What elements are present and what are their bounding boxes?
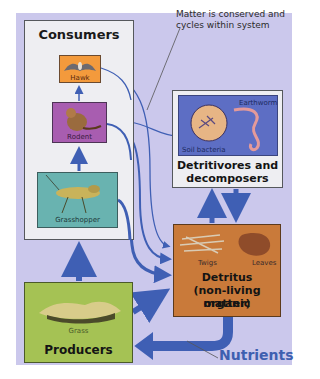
leaves-label: Leaves [252, 259, 276, 267]
rodent-image [53, 104, 107, 134]
earthworm-image [234, 109, 259, 150]
detritus-title-line3: matter) [174, 297, 280, 310]
producers-box: Grass Producers [24, 282, 133, 363]
grasshopper-label: Grasshopper [38, 216, 117, 224]
producers-title: Producers [25, 344, 132, 357]
soil-bacteria-label: Soil bacteria [182, 146, 226, 154]
detritivores-title-line2: decomposers [173, 172, 282, 185]
grasshopper-box: Grasshopper [37, 172, 118, 228]
grasshopper-image [38, 173, 118, 215]
nutrients-label: Nutrients [219, 347, 294, 363]
detritivores-title-line1: Detritivores and [173, 159, 282, 172]
decomposers-image-panel: Earthworm Soil bacteria [178, 95, 278, 156]
detritus-box: Twigs Leaves Detritus (non-living organi… [173, 224, 281, 317]
twigs-label: Twigs [198, 259, 217, 267]
hawk-box: Hawk [59, 55, 101, 83]
earthworm-label: Earthworm [239, 99, 277, 107]
twigs-leaves-image [174, 229, 280, 263]
hawk-label: Hawk [60, 74, 100, 82]
rodent-box: Rodent [52, 102, 107, 143]
grass-label: Grass [25, 327, 132, 335]
matter-conserved-annotation: Matter is conserved and cycles within sy… [176, 9, 296, 31]
rodent-label: Rodent [53, 133, 106, 141]
detritus-title-line1: Detritus [174, 271, 280, 284]
grass-image [25, 291, 133, 325]
